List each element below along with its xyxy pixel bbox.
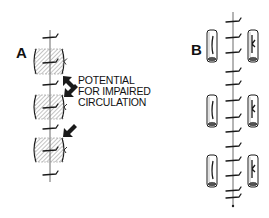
- cylinder-base: [249, 122, 257, 125]
- tick-mark: [226, 68, 241, 72]
- hatched-segment: [35, 49, 63, 74]
- axis-end-dot: [232, 205, 234, 207]
- cylinder-base: [208, 182, 216, 185]
- panel-b-label: B: [191, 41, 202, 58]
- tick-mark: [226, 157, 241, 161]
- tick-mark: [226, 81, 241, 85]
- panel-b-drawing: [207, 12, 258, 207]
- tick-mark: [226, 49, 241, 53]
- cylinder-base: [208, 57, 216, 60]
- tick-mark: [226, 114, 241, 118]
- diagram-canvas: [0, 0, 269, 218]
- cylinder-base: [249, 57, 257, 60]
- tick-mark: [43, 34, 58, 38]
- tick-mark: [226, 34, 241, 38]
- arrow-icon: [63, 124, 77, 137]
- tick-mark: [226, 172, 241, 176]
- tick-mark: [43, 171, 58, 175]
- tick-mark: [226, 143, 241, 147]
- panel-a-drawing: [34, 30, 78, 182]
- panel-a-label: A: [16, 44, 27, 61]
- impaired-circulation-annotation: POTENTIAL FOR IMPAIRED CIRCULATION: [78, 75, 151, 108]
- tick-mark: [226, 128, 241, 132]
- tick-mark: [226, 187, 241, 191]
- tick-mark: [226, 97, 241, 101]
- tick-mark: [226, 18, 241, 22]
- tick-mark: [43, 81, 58, 85]
- tick-mark: [43, 125, 58, 129]
- annotation-line-3: CIRCULATION: [78, 97, 151, 108]
- cylinder-base: [208, 122, 216, 125]
- cylinder-base: [249, 182, 257, 185]
- tick-mark: [226, 194, 241, 198]
